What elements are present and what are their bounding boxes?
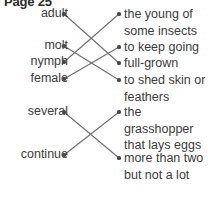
definition-item-keepgoing[interactable]: to keep going xyxy=(124,39,208,56)
term-item-continue[interactable]: continue xyxy=(21,148,68,161)
term-dot-molt[interactable] xyxy=(62,44,65,47)
definition-item-grasshopper[interactable]: the grasshopper that lays eggs xyxy=(124,104,208,154)
term-dot-adult[interactable] xyxy=(62,12,65,15)
definition-item-fullgrown[interactable]: full-grown xyxy=(124,55,208,72)
definition-dot-morethan[interactable] xyxy=(117,156,120,159)
definition-label: more than two but not a lot xyxy=(124,151,203,182)
term-label: continue xyxy=(21,147,68,161)
match-line-continue-to-grasshopper xyxy=(64,112,119,155)
definition-item-morethan[interactable]: more than two but not a lot xyxy=(124,150,208,183)
term-dot-continue[interactable] xyxy=(62,153,65,156)
term-dot-nymph[interactable] xyxy=(62,60,65,63)
definition-label: full-grown xyxy=(124,56,178,70)
definition-dot-young[interactable] xyxy=(117,12,120,15)
match-line-nymph-to-young xyxy=(64,14,119,62)
definition-label: the grasshopper that lays eggs xyxy=(124,105,201,152)
definition-item-shedskin[interactable]: to shed skin or feathers xyxy=(124,72,208,105)
definition-dot-grasshopper[interactable] xyxy=(117,110,120,113)
definition-dot-keepgoing[interactable] xyxy=(117,45,120,48)
match-line-female-to-keepgoing xyxy=(64,47,119,79)
definition-label: the young of some insects xyxy=(124,7,197,38)
definition-dot-shedskin[interactable] xyxy=(117,78,120,81)
worksheet-page: Page 25 adultmoltnymphfemaleseveralconti… xyxy=(0,0,208,199)
match-line-adult-to-fullgrown xyxy=(64,14,119,63)
term-dot-female[interactable] xyxy=(62,77,65,80)
definition-dot-fullgrown[interactable] xyxy=(117,61,120,64)
definition-item-young[interactable]: the young of some insects xyxy=(124,6,208,39)
match-line-several-to-morethan xyxy=(64,112,119,158)
match-line-molt-to-shedskin xyxy=(64,46,119,80)
definition-label: to keep going xyxy=(124,40,199,54)
definition-label: to shed skin or feathers xyxy=(124,73,205,104)
term-dot-several[interactable] xyxy=(62,110,65,113)
